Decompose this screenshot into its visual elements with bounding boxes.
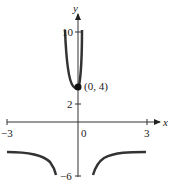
x-axis-label: x <box>162 116 168 128</box>
y-tick-label-2: 2 <box>67 98 73 110</box>
x-tick-label-neg3: −3 <box>1 127 13 139</box>
x-tick-label-3: 3 <box>144 127 150 139</box>
upper-branch-curve <box>65 30 82 89</box>
y-axis-label: y <box>72 2 78 14</box>
point-label: (0, 4) <box>84 80 108 93</box>
lower-right-branch-curve <box>93 152 146 175</box>
y-tick-label-10: 10 <box>62 26 74 38</box>
point-marker <box>75 84 82 91</box>
function-graph: (0, 4) y x 10 2 −6 −3 0 3 <box>0 0 177 184</box>
lower-left-branch-curve <box>7 152 56 175</box>
x-tick-label-0: 0 <box>81 127 87 139</box>
y-tick-label-neg6: −6 <box>60 170 72 182</box>
